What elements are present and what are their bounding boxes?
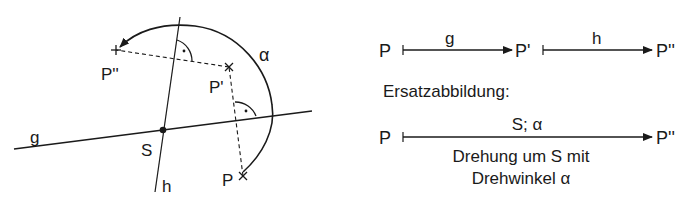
geometry-figure: g h S P P' P'' α <box>14 17 312 196</box>
replacement-heading: Ersatzabbildung: <box>383 82 510 101</box>
chain-map1-label: g <box>445 29 454 48</box>
label-P1: P' <box>209 78 224 97</box>
label-P2: P'' <box>101 65 119 84</box>
replacement-map-label: S; α <box>512 115 543 134</box>
label-alpha: α <box>259 45 269 65</box>
label-g: g <box>30 128 39 147</box>
chain-mid: P' <box>515 41 530 61</box>
mapping-chain: P g P' h P'' <box>379 29 675 61</box>
point-S <box>160 127 167 134</box>
line-h <box>155 17 180 192</box>
replacement-start: P <box>379 128 391 148</box>
replacement-desc-line2: Drehwinkel α <box>472 169 571 188</box>
label-P: P <box>222 171 233 190</box>
replacement-end: P'' <box>656 128 675 148</box>
label-h: h <box>162 177 171 196</box>
chain-start: P <box>379 41 391 61</box>
right-angle-mark-g <box>235 102 256 116</box>
chain-end: P'' <box>656 41 675 61</box>
replacement-mapping: P S; α P'' Drehung um S mit Drehwinkel α <box>379 115 675 188</box>
chain-map2-label: h <box>592 29 601 48</box>
label-S: S <box>141 141 152 160</box>
replacement-desc-line1: Drehung um S mit <box>453 147 590 166</box>
diagram-canvas: g h S P P' P'' α P g P' h P'' Ersatzabbi… <box>0 0 696 207</box>
right-angle-dot-g <box>245 110 248 113</box>
right-angle-dot-h <box>183 50 186 53</box>
dashed-P1-to-P2 <box>116 50 229 67</box>
